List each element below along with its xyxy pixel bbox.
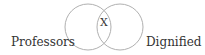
intersection-label: X [100,16,108,29]
set-label-dignified: Dignified [146,35,202,49]
venn-diagram: X Professors Dignified [0,0,205,55]
set-label-professors: Professors [11,35,75,49]
